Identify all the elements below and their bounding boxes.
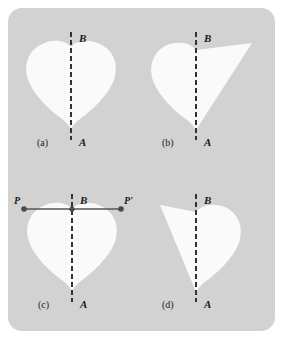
figure-container: B A (a) B A (b) P P' B A (c) (0, 0, 283, 344)
panel-caption-b: (b) (162, 137, 174, 149)
axis-bottom-label-c: A (79, 298, 87, 310)
point-dot-midpoint (69, 206, 74, 211)
axis-top-label-c: B (79, 194, 87, 206)
axis-top-label-b: B (203, 32, 211, 44)
axis-bottom-label-d: A (203, 298, 211, 310)
panel-caption-d: (d) (162, 299, 174, 311)
axis-top-label-a: B (78, 32, 86, 44)
axis-top-label-d: B (203, 194, 211, 206)
point-label-p: P (14, 195, 21, 206)
point-dot-p (21, 206, 27, 212)
point-label-p-prime: P' (124, 195, 133, 206)
panel-caption-c: (c) (38, 299, 49, 311)
axis-bottom-label-b: A (203, 136, 211, 148)
panel-caption-a: (a) (37, 137, 48, 149)
point-dot-p-prime (118, 206, 124, 212)
axis-bottom-label-a: A (78, 136, 86, 148)
symmetry-figure: B A (a) B A (b) P P' B A (c) (0, 0, 283, 344)
